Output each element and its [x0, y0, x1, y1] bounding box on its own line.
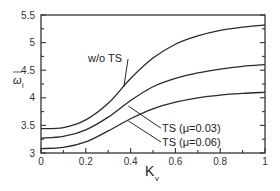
plot-border — [41, 15, 265, 153]
annotation-label-1: TS (μ=0.03) — [162, 122, 221, 134]
series-line-1 — [41, 65, 265, 138]
y-axis-label-subscript: l — [22, 82, 24, 89]
x-axis-label-main: K — [145, 163, 155, 179]
plot-frame — [41, 15, 265, 153]
x-tick-label: 0.2 — [79, 156, 93, 167]
y-tick-label: 3.5 — [21, 120, 35, 131]
x-tick-label: 0.6 — [168, 156, 182, 167]
x-tick-label: 0 — [38, 156, 44, 167]
series-line-2 — [41, 92, 265, 148]
y-axis-label-main: ω — [13, 74, 22, 86]
line-chart: 00.20.40.60.81 33.544.555.5 w/o TSTS (μ=… — [0, 0, 280, 191]
x-axis-label-subscript: v — [155, 174, 159, 183]
y-tick-label: 5.5 — [21, 10, 35, 21]
y-tick-label: 4.5 — [21, 65, 35, 76]
x-axis-label: K v — [145, 163, 159, 183]
x-tick-label: 0.4 — [124, 156, 138, 167]
axis-ticks — [41, 15, 265, 153]
y-tick-label: 4 — [29, 92, 35, 103]
annotation-label-2: TS (μ=0.06) — [162, 136, 221, 148]
y-tick-label: 5 — [29, 37, 35, 48]
annotation-leader-2 — [128, 121, 161, 142]
annotation-label-0: w/o TS — [87, 52, 122, 64]
annotations: w/o TSTS (μ=0.03)TS (μ=0.06) — [87, 52, 221, 148]
x-tick-label: 1 — [262, 156, 268, 167]
series-line-0 — [41, 25, 265, 129]
data-series — [41, 25, 265, 149]
y-tick-label: 3 — [29, 148, 35, 159]
x-tick-label: 0.8 — [213, 156, 227, 167]
